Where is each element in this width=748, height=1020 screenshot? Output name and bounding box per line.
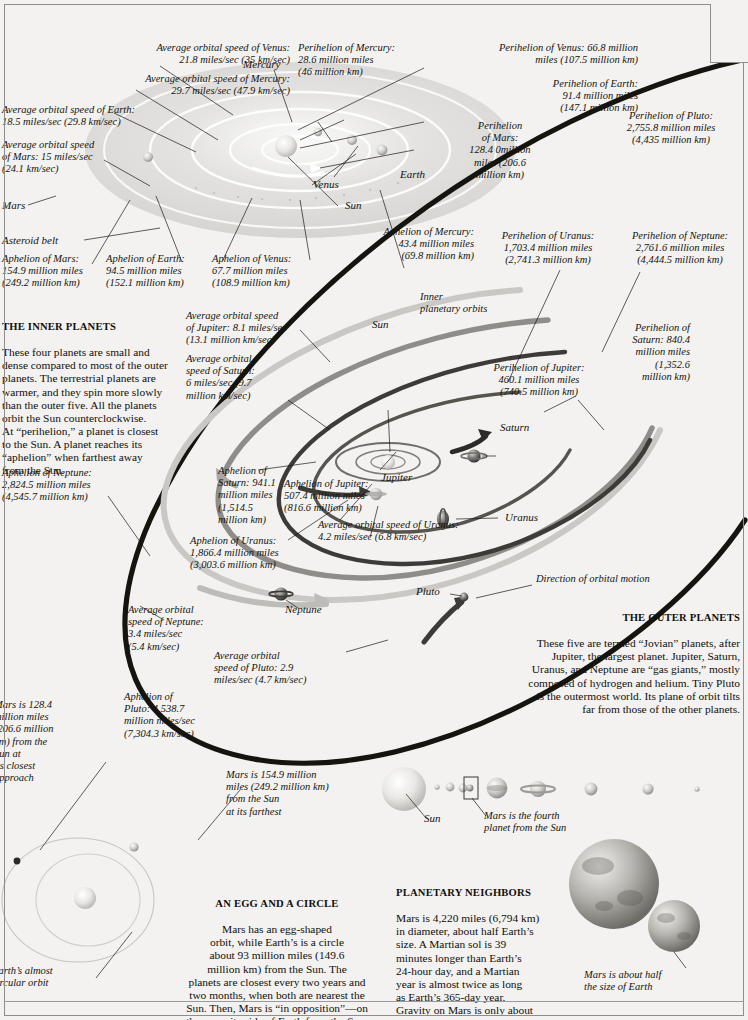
outer-planets-body: These five are termed “Jovian” planets, … [462,637,740,716]
label-aphelion-pluto: Aphelion of Pluto: 4,538.7 million miles… [124,691,234,740]
inner-planets-heading: THE INNER PLANETS [2,320,188,333]
label-neptune-orbital-speed: Average orbital speed of Neptune: 3.4 mi… [128,604,258,653]
label-perihelion-neptune: Perihelion of Neptune: 2,761.6 million m… [612,230,748,267]
label-jupiter: Jupiter [381,471,412,483]
label-mars-half-size-of-earth: Mars is about half the size of Earth [584,969,714,993]
outer-planets-textblock: THE OUTER PLANETS These five are termed … [462,598,740,729]
label-mercury: Mercury [243,58,280,70]
egg-and-circle-heading: AN EGG AND A CIRCLE [182,897,372,910]
label-uranus: Uranus [505,511,538,523]
label-venus: Venus [313,178,339,190]
outer-planets-heading: THE OUTER PLANETS [462,611,740,624]
label-inner-planetary-orbits: Inner planetary orbits [420,291,540,315]
label-aphelion-earth: Aphelion of Earth: 94.5 million miles (1… [106,253,226,290]
inner-planets-textblock: THE INNER PLANETS These four planets are… [2,307,188,490]
label-aphelion-neptune: Aphelion of Neptune: 2,824.5 million mil… [2,467,142,504]
label-perihelion-venus: Perihelion of Venus: 66.8 million miles … [398,42,638,66]
label-perihelion-mars: Perihelion of Mars: 128.4 0million miles… [448,120,552,181]
bottom-rule [4,1001,744,1002]
label-earth-orbital-speed: Average orbital speed of Earth: 18.5 mil… [2,104,252,128]
label-aphelion-mercury: Aphelion of Mercury: 43.4 million miles … [274,226,474,263]
diagram-page: Average orbital speed of Venus: 21.8 mil… [0,0,748,1020]
label-sun-inner: Sun [345,199,362,211]
planet-size-row [382,767,700,811]
label-neptune: Neptune [285,603,322,615]
label-pluto: Pluto [416,585,440,597]
label-saturn: Saturn [500,421,529,433]
label-direction-of-orbital-motion: Direction of orbital motion [536,573,726,585]
label-perihelion-pluto: Perihelion of Pluto: 2,755.8 million mil… [598,110,744,147]
label-asteroid-belt: Asteroid belt [2,234,58,246]
label-mars-orbital-speed: Average orbital speed of Mars: 15 miles/… [2,139,162,176]
planetary-neighbors-textblock: PLANETARY NEIGHBORS Mars is 4,220 miles … [396,873,560,1020]
label-mercury-orbital-speed: Average orbital speed of Mercury: 29.7 m… [30,73,290,97]
label-sun-outer: Sun [372,318,389,330]
label-mars: Mars [2,199,25,211]
label-perihelion-saturn: Perihelion of Saturn: 840.4 million mile… [580,322,690,383]
label-saturn-orbital-speed: Average orbital speed of Saturn: 6 miles… [186,353,316,402]
label-mars-closest-approach: Mars is 128.4 million miles (206.6 milli… [0,699,94,784]
egg-and-circle-body: Mars has an egg-shaped orbit, while Eart… [182,923,372,1020]
label-aphelion-uranus: Aphelion of Uranus: 1,866.4 million mile… [190,535,350,572]
label-perihelion-uranus: Perihelion of Uranus: 1,703.4 million mi… [478,230,618,267]
page-border-notch [710,4,748,63]
planetary-neighbors-body: Mars is 4,220 miles (6,794 km) in diamet… [396,912,560,1020]
mars-earth-globes [569,839,700,952]
label-mars-farthest: Mars is 154.9 million miles (249.2 milli… [226,769,386,818]
planetary-neighbors-heading: PLANETARY NEIGHBORS [396,886,560,899]
label-mars-fourth-planet: Mars is the fourth planet from the Sun [484,810,624,834]
label-aphelion-jupiter: Aphelion of Jupiter: 507.4 million miles… [284,478,414,515]
label-pluto-orbital-speed: Average orbital speed of Pluto: 2.9 mile… [214,650,344,687]
mars-earth-orbit-inset [2,838,154,962]
inner-planets-body: These four planets are small and dense c… [2,346,188,477]
egg-and-circle-textblock: AN EGG AND A CIRCLE Mars has an egg-shap… [182,884,372,1020]
label-jupiter-orbital-speed: Average orbital speed of Jupiter: 8.1 mi… [186,310,346,347]
label-earth: Earth [400,168,425,180]
label-earth-circular-orbit: Earth’s almost circular orbit [0,965,102,989]
label-sun-size-row: Sun [424,812,441,824]
label-aphelion-mars: Aphelion of Mars: 154.9 million miles (2… [2,253,122,290]
